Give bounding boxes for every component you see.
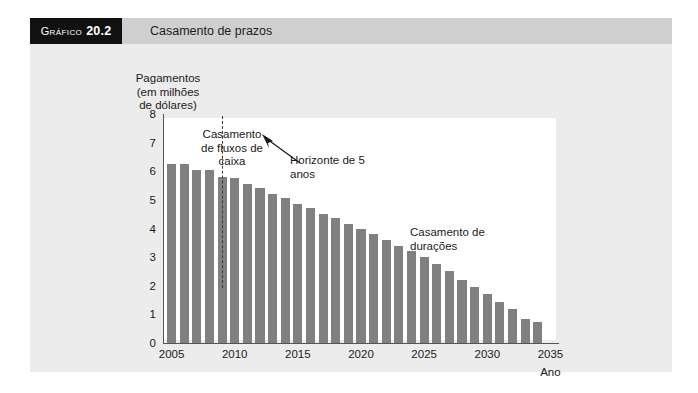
bar-2022 bbox=[382, 240, 391, 343]
y-axis-title: Pagamentos (em milhões de dólares) bbox=[114, 72, 222, 113]
bar-2013 bbox=[268, 194, 277, 343]
page-root: Gráfico20.2 Casamento de prazos Pagament… bbox=[0, 0, 698, 393]
figure-number-text: 20.2 bbox=[86, 24, 111, 38]
x-axis-line bbox=[163, 343, 559, 344]
bar-2017 bbox=[319, 214, 328, 343]
x-tick-2030: 2030 bbox=[464, 348, 510, 360]
annotation-cash-flow-matching: Casamento de fluxos de caixa bbox=[196, 128, 268, 169]
x-tick-2035: 2035 bbox=[527, 348, 573, 360]
bar-2006 bbox=[180, 164, 189, 343]
bar-2019 bbox=[344, 224, 353, 343]
x-tick-2005: 2005 bbox=[149, 348, 195, 360]
bar-2026 bbox=[432, 264, 441, 343]
bar-2025 bbox=[420, 257, 429, 343]
annotation-horizon: Horizonte de 5 anos bbox=[290, 154, 386, 181]
x-tick-2020: 2020 bbox=[338, 348, 384, 360]
annotation-duration-matching: Casamento de durações bbox=[410, 226, 520, 253]
bar-2011 bbox=[243, 184, 252, 343]
y-tick-4: 4 bbox=[130, 223, 156, 235]
figure-title: Casamento de prazos bbox=[122, 18, 672, 44]
bar-2033 bbox=[521, 319, 530, 343]
x-axis-title: Ano bbox=[540, 366, 560, 378]
bar-2030 bbox=[483, 294, 492, 343]
bar-2029 bbox=[470, 287, 479, 343]
y-axis-title-line-1: Pagamentos bbox=[114, 72, 222, 86]
figure-card: Gráfico20.2 Casamento de prazos Pagament… bbox=[30, 18, 672, 372]
bar-2031 bbox=[495, 302, 504, 344]
bar-2008 bbox=[205, 170, 214, 343]
y-tick-3: 3 bbox=[130, 251, 156, 263]
figure-header: Gráfico20.2 Casamento de prazos bbox=[30, 18, 672, 44]
bar-2023 bbox=[394, 246, 403, 343]
figure-number-badge: Gráfico20.2 bbox=[30, 18, 122, 44]
y-tick-5: 5 bbox=[130, 194, 156, 206]
bar-2034 bbox=[533, 322, 542, 343]
bar-2032 bbox=[508, 309, 517, 343]
bar-2024 bbox=[407, 251, 416, 343]
y-tick-7: 7 bbox=[130, 137, 156, 149]
bar-2012 bbox=[255, 188, 264, 343]
bar-2021 bbox=[369, 234, 378, 343]
x-tick-2010: 2010 bbox=[212, 348, 258, 360]
y-tick-2: 2 bbox=[130, 280, 156, 292]
y-tick-6: 6 bbox=[130, 165, 156, 177]
y-tick-1: 1 bbox=[130, 308, 156, 320]
y-axis-title-line-2: (em milhões bbox=[114, 86, 222, 100]
bar-2028 bbox=[457, 280, 466, 343]
chart-body: Pagamentos (em milhões de dólares) 01234… bbox=[30, 44, 672, 372]
figure-label-text: Gráfico bbox=[41, 25, 83, 37]
y-tick-8: 8 bbox=[130, 108, 156, 120]
bar-2014 bbox=[281, 198, 290, 343]
bar-2005 bbox=[167, 164, 176, 343]
bar-2018 bbox=[331, 218, 340, 343]
x-tick-2025: 2025 bbox=[401, 348, 447, 360]
bar-2007 bbox=[192, 170, 201, 343]
bar-2010 bbox=[230, 178, 239, 343]
bar-2027 bbox=[445, 271, 454, 343]
bar-2016 bbox=[306, 208, 315, 343]
bar-2015 bbox=[293, 204, 302, 343]
bar-2020 bbox=[356, 229, 365, 344]
x-tick-2015: 2015 bbox=[275, 348, 321, 360]
